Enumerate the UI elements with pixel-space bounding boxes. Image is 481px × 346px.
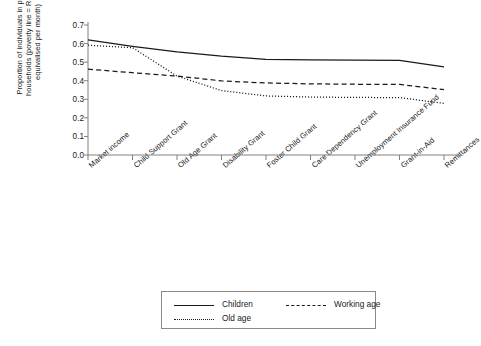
data-lines [88,40,444,104]
series-line [88,45,444,103]
legend-swatch-dotted [174,319,214,320]
axes [84,22,462,160]
legend-label: Working age [334,299,380,309]
series-line [88,69,444,89]
legend-label: Old age [222,313,251,323]
legend-swatch-solid [174,305,214,306]
legend-label: Children [222,299,253,309]
legend-swatch-dashed [286,305,326,306]
chart-legend: ChildrenWorking ageOld age [161,291,376,329]
series-line [88,40,444,67]
